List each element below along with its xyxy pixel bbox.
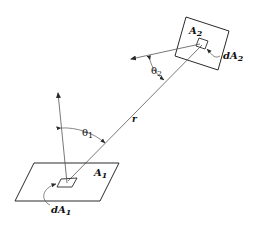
label-theta1: θ1 (82, 127, 93, 140)
normal-vector-2 (131, 44, 200, 59)
label-theta2: θ2 (151, 65, 162, 78)
line-r (68, 45, 202, 181)
label-r: r (132, 114, 138, 124)
surface-a2 (175, 17, 229, 70)
view-factor-diagram: A2 dA2 θ2 r θ1 A1 dA1 (0, 0, 259, 231)
da2-leader (207, 49, 220, 57)
normal-vector-1 (58, 93, 67, 183)
label-a2: A2 (188, 25, 203, 38)
label-da2: dA2 (223, 50, 244, 63)
label-da1: dA1 (51, 204, 71, 217)
da1-leader (44, 184, 56, 205)
differential-area-da2 (196, 38, 208, 49)
label-a1: A1 (93, 167, 107, 180)
